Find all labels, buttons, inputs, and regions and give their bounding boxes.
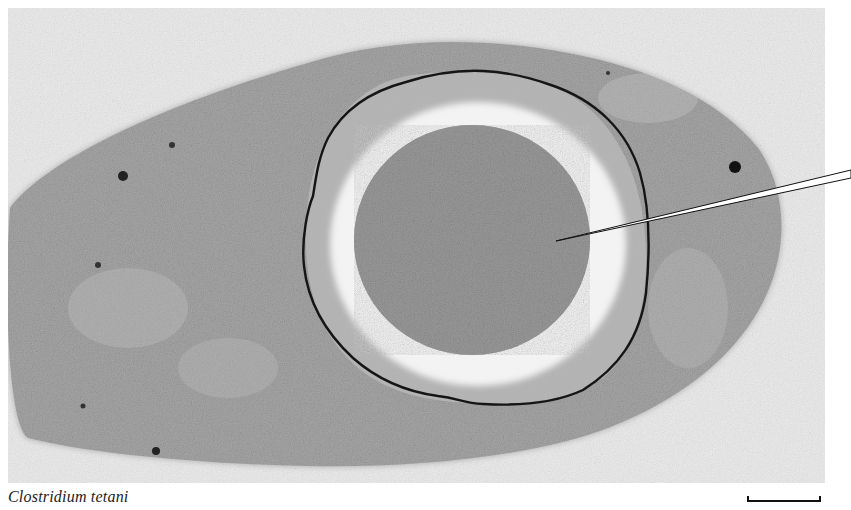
bacterium-cell-illustration [8, 8, 825, 483]
scale-bar [747, 496, 821, 502]
electron-micrograph [8, 8, 825, 483]
figure-caption: Clostridium tetani [8, 488, 129, 506]
endospore [303, 71, 648, 405]
